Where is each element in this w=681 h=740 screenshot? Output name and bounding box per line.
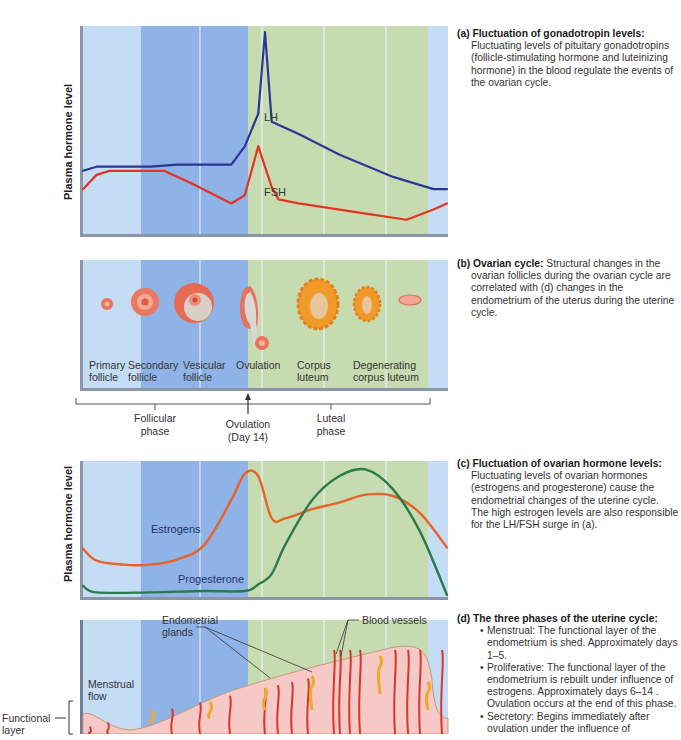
lh-series-label: LH bbox=[264, 111, 278, 123]
caption-a: (a) Fluctuation of gonadotropin levels: … bbox=[457, 28, 679, 89]
secretory-phase-band bbox=[248, 26, 428, 236]
panel-bottom-edge bbox=[80, 388, 448, 391]
y-axis-line bbox=[80, 461, 83, 599]
follicular-phase-label: Follicularphase bbox=[125, 412, 185, 437]
caption-c: (c) Fluctuation of ovarian hormone level… bbox=[457, 458, 679, 531]
panel-a-gonadotropin-chart: LHFSH bbox=[60, 0, 460, 240]
fsh-series-label: FSH bbox=[264, 186, 286, 198]
gonadotropin-chart-svg: LHFSH bbox=[60, 0, 460, 240]
ovarian-hormone-chart-svg: EstrogensProgesterone bbox=[60, 455, 460, 605]
caption-d: (d) The three phases of the uterine cycl… bbox=[457, 613, 679, 735]
caption-c-heading: (c) Fluctuation of ovarian hormone level… bbox=[457, 458, 679, 470]
panel-left-edge bbox=[80, 260, 83, 390]
stage-label-corpus-luteum: Corpusluteum bbox=[297, 359, 331, 383]
estrogens-series-label: Estrogens bbox=[151, 523, 201, 535]
caption-d-heading: (d) The three phases of the uterine cycl… bbox=[457, 613, 679, 625]
caption-a-body: Fluctuating levels of pituitary gonadotr… bbox=[457, 40, 679, 89]
caption-a-heading: (a) Fluctuation of gonadotropin levels: bbox=[457, 28, 679, 40]
primary-follicle-oocyte bbox=[105, 302, 110, 307]
x-axis-line bbox=[80, 234, 448, 237]
next-menstrual-band bbox=[428, 461, 448, 599]
phase-item-secretory: Secretory: Begins immediately after ovul… bbox=[487, 711, 679, 735]
stage-label-primary-follicle: Primaryfollicle bbox=[89, 359, 125, 383]
secretory-phase-band bbox=[248, 461, 428, 599]
panel-c-ovarian-hormone-chart: EstrogensProgesterone bbox=[60, 455, 460, 605]
corpus-albicans-icon bbox=[399, 295, 421, 305]
functional-layer-bracket bbox=[0, 700, 80, 740]
stage-label-ovulation: Ovulation bbox=[236, 359, 280, 371]
menstrual-phase-band bbox=[82, 461, 141, 599]
caption-b-heading: (b) Ovarian cycle: bbox=[457, 258, 543, 269]
next-menstrual-band bbox=[428, 260, 448, 390]
endometrium-svg bbox=[60, 610, 460, 734]
caption-c-body: Fluctuating levels of ovarian hormones (… bbox=[457, 470, 679, 531]
ovulation-day-label: Ovulation(Day 14) bbox=[218, 418, 278, 443]
y-axis-line bbox=[80, 26, 83, 236]
stage-label-secondary-follicle: Secondaryfollicle bbox=[128, 359, 178, 383]
uterine-phase-list: Menstrual: The functional layer of the e… bbox=[457, 625, 679, 735]
phase-item-proliferative: Proliferative: The functional layer of t… bbox=[487, 662, 679, 711]
menstrual-phase-band bbox=[82, 26, 141, 236]
stage-label-vesicular-follicle: Vesicularfollicle bbox=[183, 359, 226, 383]
menstrual-flow-label: Menstrualflow bbox=[88, 678, 134, 702]
ovulation-arrow-icon bbox=[245, 393, 251, 400]
panel-a-y-axis-label: Plasma hormone level bbox=[62, 84, 74, 200]
endometrial-glands-label: Endometrialglands bbox=[162, 614, 218, 638]
blood-vessels-label: Blood vessels bbox=[362, 614, 427, 626]
proliferative-phase-band bbox=[141, 26, 248, 236]
panel-c-y-axis-label: Plasma hormone level bbox=[62, 466, 74, 582]
caption-b: (b) Ovarian cycle: Structural changes in… bbox=[457, 258, 679, 319]
phase-item-menstrual: Menstrual: The functional layer of the e… bbox=[487, 625, 679, 662]
progesterone-series-label: Progesterone bbox=[178, 573, 244, 585]
stage-label-degenerating-corpus-luteum: Degeneratingcorpus luteum bbox=[353, 359, 419, 383]
luteal-phase-label: Lutealphase bbox=[301, 412, 361, 437]
x-axis-line bbox=[80, 597, 448, 600]
panel-d-endometrium bbox=[60, 610, 460, 734]
